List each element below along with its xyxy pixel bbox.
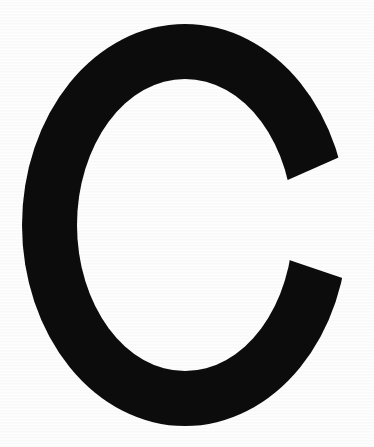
glyph-body [22,24,348,426]
glyph-group [22,24,348,426]
image-canvas: C [0,0,374,447]
letter-c-glyph: C [0,0,374,447]
